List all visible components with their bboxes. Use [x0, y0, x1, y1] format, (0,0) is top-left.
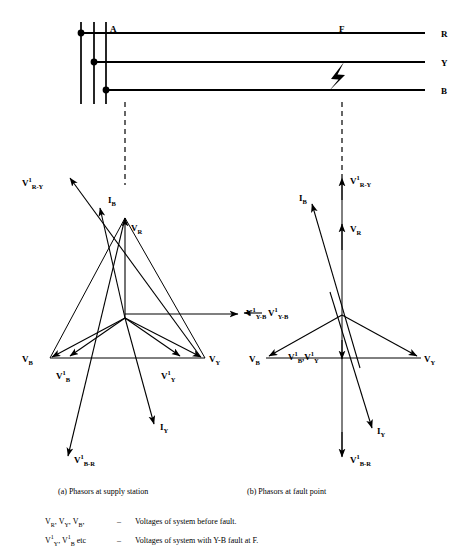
- label-v-r: VR: [350, 224, 362, 236]
- legend-row-with-fault-dash: –: [116, 536, 122, 545]
- label-v1-y-b: V1Y-B: [268, 306, 289, 320]
- phase-b-label: B: [441, 86, 447, 96]
- label-v-b: VB: [249, 354, 261, 366]
- phasor-diagram-supply-station: V1R-Y IB VR V1Y-B VB V1B V1Y VY: [22, 176, 267, 467]
- label-v-y: VY: [424, 354, 436, 366]
- phasor-v1-r-y: [70, 178, 200, 356]
- phase-y-label: Y: [441, 58, 448, 68]
- junction-dot-b: [103, 87, 110, 94]
- fault-point-label: F: [339, 24, 345, 34]
- supply-station-label: A: [110, 24, 117, 34]
- phasor-diagram-fault-point: V1R-Y IB VR V1Y-B VB V1B,V1Y VY IY: [244, 174, 436, 467]
- label-i-b: IB: [299, 193, 308, 205]
- phasor-i-y: [125, 318, 154, 424]
- legend-row-with-fault-description: Voltages of system with Y-B fault at F.: [135, 536, 258, 545]
- phasor-i-y: [330, 292, 372, 428]
- label-v-r: VR: [131, 223, 143, 235]
- label-v1-b: V1B: [56, 369, 71, 383]
- lightning-bolt-icon: [329, 62, 345, 91]
- label-v1-y: V1Y: [161, 369, 176, 383]
- legend-row-before-fault-dash: –: [116, 517, 122, 526]
- triangle-side-left: [50, 218, 125, 358]
- phasor-v-b: [52, 318, 125, 357]
- phasor-v1-b: [70, 318, 125, 356]
- label-v1-r-y: V1R-Y: [350, 174, 372, 188]
- label-i-y: IY: [160, 422, 169, 434]
- legend-row-before-fault-description: Voltages of system before fault.: [135, 517, 236, 526]
- label-i-y: IY: [377, 426, 386, 438]
- phasor-v1-y: [125, 318, 180, 356]
- label-v-b: VB: [22, 354, 34, 366]
- triangle-side-right: [125, 218, 205, 358]
- label-v1-b-r: V1B-R: [350, 453, 371, 467]
- single-line-diagram: A F R Y B: [78, 22, 448, 185]
- label-v-y: VY: [209, 354, 221, 366]
- label-v1-b-r: V1B-R: [74, 453, 95, 467]
- junction-dot-r: [78, 30, 85, 37]
- caption-left: (a) Phasors at supply station: [58, 487, 148, 496]
- phasor-v-b: [269, 315, 342, 356]
- phase-r-label: R: [441, 29, 448, 39]
- junction-dot-y: [91, 59, 98, 66]
- caption-right: (b) Phasors at fault point: [247, 487, 327, 496]
- legend-row-before-fault-symbols: VR, VY, VB,: [45, 517, 84, 528]
- label-v1-b-v1-y: V1B,V1Y: [288, 350, 319, 364]
- label-i-b: IB: [108, 195, 117, 207]
- phasor-left-labels: V1R-Y IB VR V1Y-B VB V1B V1Y VY: [22, 176, 267, 467]
- legend: VR, VY, VB, – Voltages of system before …: [45, 517, 258, 547]
- phasor-v-y: [125, 318, 201, 357]
- phasor-figure: A F R Y B: [0, 0, 468, 554]
- label-v1-r-y: V1R-Y: [22, 176, 44, 190]
- legend-row-with-fault-symbols: V1Y, V1B etc: [45, 534, 87, 547]
- phasor-v-y: [342, 315, 417, 356]
- phasor-v1-b-r: [68, 218, 125, 456]
